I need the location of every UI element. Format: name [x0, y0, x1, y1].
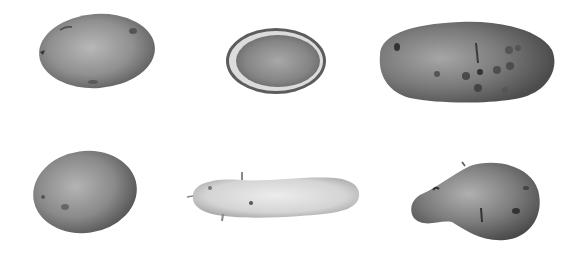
potato-bottom-middle [187, 172, 359, 221]
potato-top-left [37, 10, 158, 92]
potato-bottom-left [28, 144, 142, 240]
potato-illustration [0, 0, 583, 255]
potato-bottom-right [411, 162, 539, 240]
potato-top-right [380, 22, 555, 103]
potato-top-middle-cut [226, 28, 326, 94]
